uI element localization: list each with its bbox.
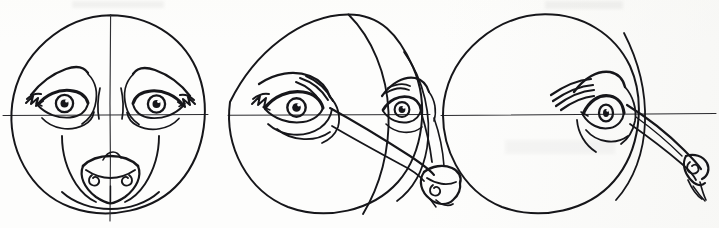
panel-2-near-eye-socket: [268, 97, 339, 143]
panel-3-eye: [581, 96, 624, 129]
panel-2-construction-circle: [229, 15, 422, 214]
panel-2-near-eye: [263, 92, 323, 123]
drawing-canvas: [0, 0, 719, 228]
panel-3-brow: [574, 72, 625, 92]
panel-1-left-eye: [36, 90, 88, 117]
panel-2-nose: [421, 166, 461, 207]
panel-3-construction-circle: [443, 14, 639, 213]
panel-1-front-view: [11, 15, 204, 222]
panel-3-center-line: [616, 33, 645, 200]
panel-1-right-eye: [133, 91, 185, 118]
sketch-illustration: [0, 0, 719, 228]
